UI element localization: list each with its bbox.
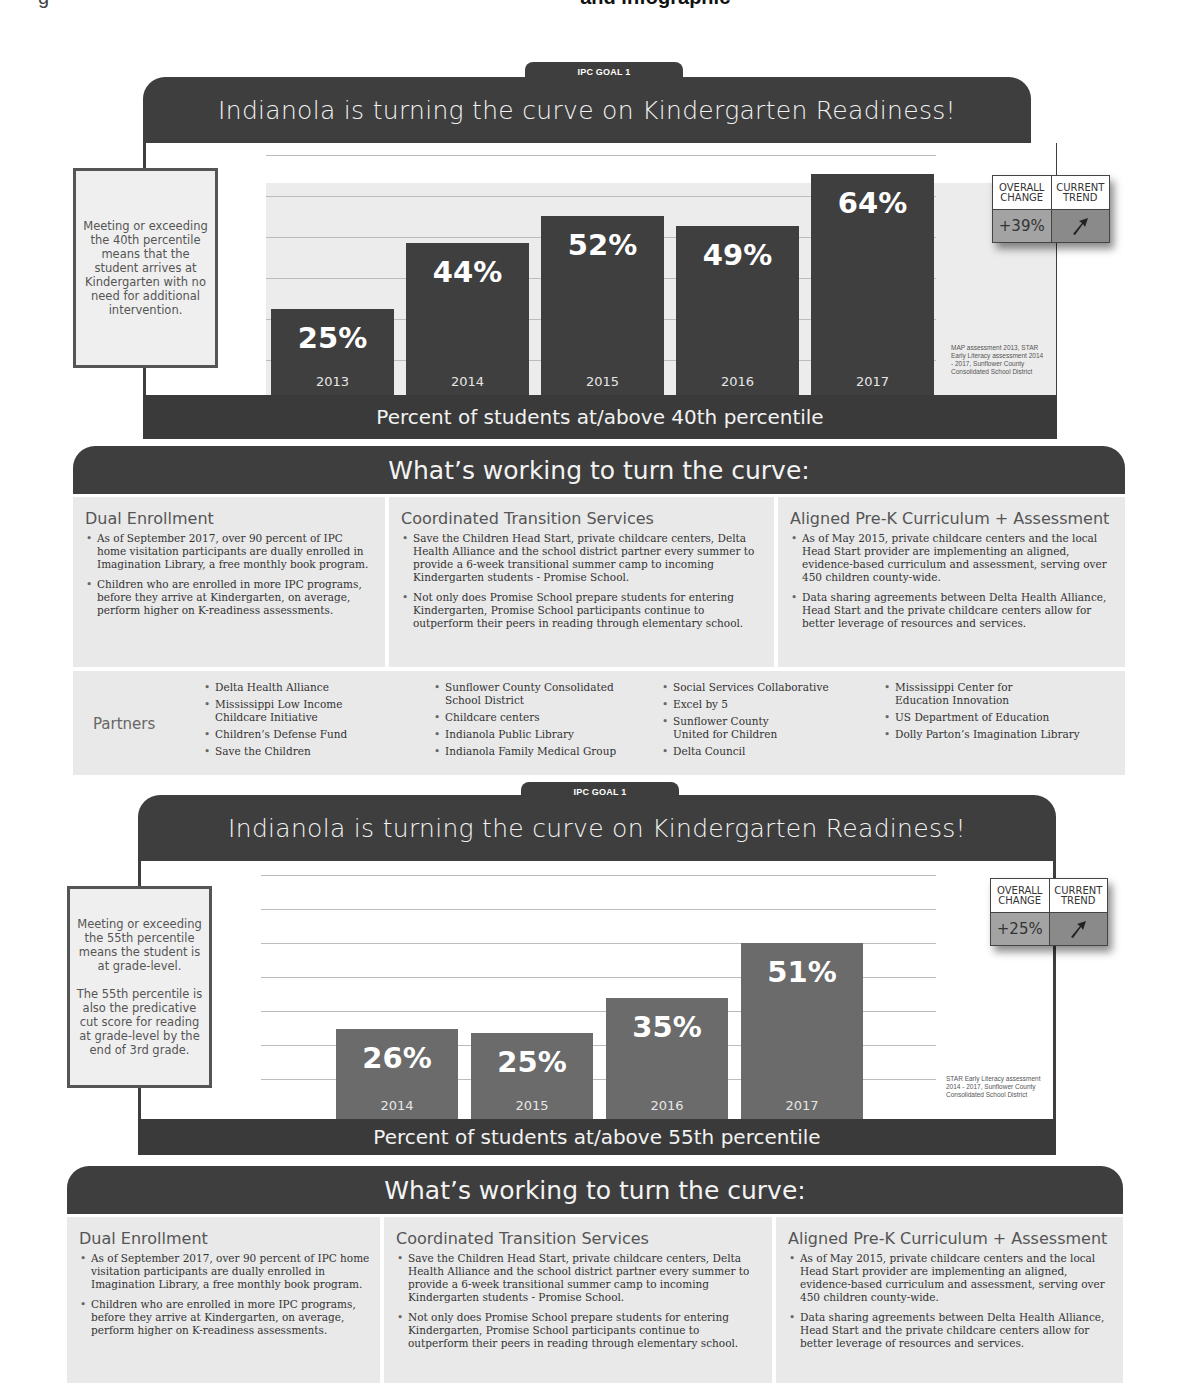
bar-value-label: 51% <box>741 955 863 989</box>
bar-2014: 26%2014 <box>336 1029 458 1119</box>
strategy-title: Aligned Pre-K Curriculum + Assessment <box>788 1229 1113 1248</box>
bar-2017: 51%2017 <box>741 943 863 1119</box>
bar-value-label: 25% <box>471 1045 593 1079</box>
goal-title-bar: Indianola is turning the curve on Kinder… <box>138 795 1056 861</box>
arrow-up-right-icon <box>1050 912 1108 945</box>
bar-year-label: 2016 <box>606 1098 728 1113</box>
bar-2015: 25%2015 <box>471 1033 593 1119</box>
chart-footer: Percent of students at/above 55th percen… <box>138 1119 1056 1155</box>
strategy-columns: Dual Enrollment As of September 2017, ov… <box>67 1214 1123 1383</box>
goal-panel-2: IPC GOAL 1 Indianola is turning the curv… <box>0 0 1181 1160</box>
strategy-item: Children who are enrolled in more IPC pr… <box>79 1298 370 1337</box>
strategy-aligned-prek: Aligned Pre-K Curriculum + Assessment As… <box>776 1217 1123 1383</box>
whats-working-title: What’s working to turn the curve: <box>384 1176 805 1205</box>
bar-year-label: 2017 <box>741 1098 863 1113</box>
bar-2016: 35%2016 <box>606 998 728 1119</box>
bar-value-label: 26% <box>336 1041 458 1075</box>
current-trend-label: CURRENT TREND <box>1050 879 1108 912</box>
bar-year-label: 2015 <box>471 1098 593 1113</box>
note-text: The 55th percentile is also the predicat… <box>76 987 203 1057</box>
strategy-item: Not only does Promise School prepare stu… <box>396 1311 762 1350</box>
strategy-title: Coordinated Transition Services <box>396 1229 762 1248</box>
bar-value-label: 35% <box>606 1010 728 1044</box>
bars: 26%201425%201535%201651%2017 <box>141 861 1055 1119</box>
overall-change-label: OVERALL CHANGE <box>991 879 1050 912</box>
goal-title: Indianola is turning the curve on Kinder… <box>228 814 966 843</box>
whats-working-panel-2: What’s working to turn the curve: Dual E… <box>67 1166 1123 1383</box>
strategy-item: Save the Children Head Start, private ch… <box>396 1252 762 1304</box>
overall-change-value: +25% <box>991 912 1050 945</box>
strategy-item: As of May 2015, private childcare center… <box>788 1252 1113 1304</box>
source-note: STAR Early Literacy assessment 2014 - 20… <box>946 1075 1041 1099</box>
strategy-dual-enrollment: Dual Enrollment As of September 2017, ov… <box>67 1217 380 1383</box>
strategy-item: As of September 2017, over 90 percent of… <box>79 1252 370 1291</box>
whats-working-header: What’s working to turn the curve: <box>67 1166 1123 1214</box>
change-box: OVERALL CHANGE CURRENT TREND +25% <box>990 878 1108 946</box>
bar-year-label: 2014 <box>336 1098 458 1113</box>
chart-area: 26%201425%201535%201651%2017 STAR Early … <box>138 861 1056 1119</box>
strategy-item: Data sharing agreements between Delta He… <box>788 1311 1113 1350</box>
note-text: Meeting or exceeding the 55th percentile… <box>76 917 203 973</box>
strategy-title: Dual Enrollment <box>79 1229 370 1248</box>
strategy-transition-services: Coordinated Transition Services Save the… <box>384 1217 772 1383</box>
x-axis-label: Percent of students at/above 55th percen… <box>373 1125 820 1149</box>
note-box: Meeting or exceeding the 55th percentile… <box>67 886 212 1088</box>
